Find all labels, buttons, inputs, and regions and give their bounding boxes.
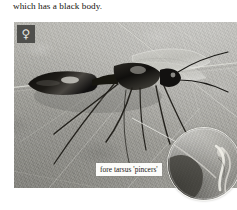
body-text-line: which has a black body. <box>13 0 223 12</box>
figure-photograph: ♀ fore tarsus 'pincers' <box>14 22 237 188</box>
female-symbol-badge: ♀ <box>17 25 35 43</box>
annotation-label-fore-tarsus: fore tarsus 'pincers' <box>96 163 162 176</box>
annotation-label-text: fore tarsus 'pincers' <box>100 165 158 174</box>
tarsus-pincer-shape <box>216 146 230 194</box>
female-symbol-icon: ♀ <box>22 28 31 40</box>
inset-tarsus-detail <box>168 128 237 200</box>
magnified-inset-circle <box>167 127 237 201</box>
